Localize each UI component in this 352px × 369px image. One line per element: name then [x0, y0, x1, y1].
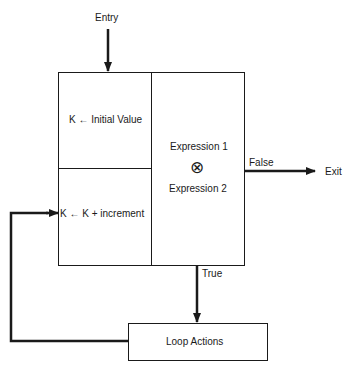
exit-label: Exit — [325, 166, 342, 178]
init-label: K ← Initial Value — [69, 114, 142, 126]
expression-1-label: Expression 1 — [170, 141, 228, 153]
entry-label: Entry — [95, 12, 118, 24]
true-label: True — [202, 268, 222, 280]
loop-control-box — [58, 72, 245, 266]
loop-actions-label: Loop Actions — [166, 336, 223, 348]
increment-label: K ← K + increment — [60, 208, 144, 220]
operator-icon: ⊗ — [190, 159, 204, 177]
false-label: False — [249, 157, 273, 169]
expression-2-label: Expression 2 — [169, 183, 227, 195]
